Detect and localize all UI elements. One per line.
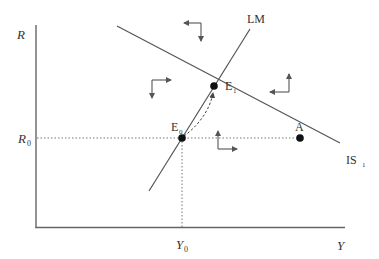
is-lm-diagram: R Y R 0 Y 0 IS 1 LM E 0 E 1 A [0,0,379,259]
point-a-label: A [295,120,304,134]
svg-text:0: 0 [27,139,31,148]
svg-text:0: 0 [179,128,183,136]
point-e1 [210,82,218,90]
direction-arrow-right-up [218,131,237,149]
point-e1-label: E 1 [225,79,237,95]
svg-text:0: 0 [184,245,188,254]
svg-text:1: 1 [233,87,237,95]
lm-curve [149,29,250,191]
is-curve-label: IS 1 [346,153,366,169]
r0-tick-label: R 0 [17,131,31,148]
direction-arrow-left-up [270,74,289,92]
svg-text:R: R [17,131,26,146]
svg-text:1: 1 [362,161,366,169]
y0-tick-label: Y 0 [176,237,188,254]
svg-text:IS: IS [346,153,357,167]
x-axis-label: Y [337,238,346,253]
direction-arrow-right-down [152,80,171,98]
lm-curve-label: LM [247,12,265,26]
svg-text:E: E [171,120,178,134]
y-axis-label: R [16,27,25,42]
point-e0-label: E 0 [171,120,183,136]
point-a [296,134,304,142]
adjustment-path-arrow [184,93,213,136]
direction-arrow-left-down [184,23,201,41]
svg-text:E: E [225,79,232,93]
